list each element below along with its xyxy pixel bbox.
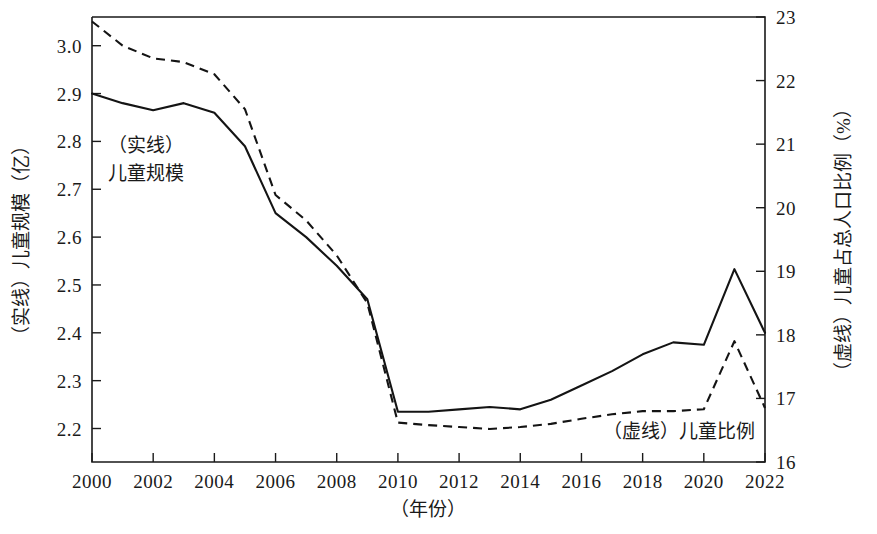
x-axis-ticks: 2000200220042006200820102012201420162018… <box>72 453 785 492</box>
series-line-children-scale <box>92 94 765 412</box>
x-axis-tick-label: 2016 <box>561 471 601 492</box>
y-axis-right-tick-label: 16 <box>776 452 796 473</box>
y-axis-left-tick-label: 2.8 <box>57 131 82 152</box>
y-axis-right-tick-label: 17 <box>776 388 796 409</box>
y-axis-left-tick-label: 2.3 <box>57 371 82 392</box>
y-axis-right-tick-label: 22 <box>776 71 796 92</box>
y-axis-left-tick-label: 2.2 <box>57 419 82 440</box>
line-chart: 2.22.32.42.52.62.72.82.93.0 161718192021… <box>0 0 877 534</box>
y-axis-right-tick-label: 20 <box>776 198 796 219</box>
y-axis-right-tick-label: 18 <box>776 325 796 346</box>
x-axis-tick-label: 2004 <box>194 471 234 492</box>
y-axis-right-tick-label: 21 <box>776 134 796 155</box>
series-line-children-share <box>92 21 765 428</box>
y-axis-left-tick-label: 2.9 <box>57 84 82 105</box>
x-axis-tick-label: 2006 <box>256 471 296 492</box>
y-axis-left-tick-label: 2.6 <box>57 227 82 248</box>
y-axis-right-tick-label: 23 <box>776 7 796 28</box>
y-axis-right-tick-label: 19 <box>776 261 796 282</box>
x-axis-tick-label: 2008 <box>317 471 357 492</box>
x-axis-tick-label: 2000 <box>72 471 112 492</box>
annotation-solid-line-1: （实线） <box>108 135 184 156</box>
chart-figure: 2.22.32.42.52.62.72.82.93.0 161718192021… <box>0 0 877 534</box>
y-axis-left-tick-label: 2.7 <box>57 179 82 200</box>
annotation-dashed-line: （虚线）儿童比例 <box>603 421 755 442</box>
x-axis-tick-label: 2002 <box>133 471 173 492</box>
y-axis-left-title: （实线）儿童规模（亿） <box>11 136 32 345</box>
x-axis-tick-label: 2018 <box>623 471 663 492</box>
x-axis-tick-label: 2020 <box>684 471 724 492</box>
plot-frame <box>92 17 765 462</box>
y-axis-right-ticks: 1617181920212223 <box>756 7 796 473</box>
y-axis-left-ticks: 2.22.32.42.52.62.72.82.93.0 <box>57 36 101 440</box>
x-axis-tick-label: 2010 <box>378 471 418 492</box>
x-axis-tick-label: 2014 <box>500 471 540 492</box>
x-axis-tick-label: 2012 <box>439 471 479 492</box>
y-axis-left-tick-label: 3.0 <box>57 36 82 57</box>
y-axis-left-tick-label: 2.5 <box>57 275 82 296</box>
y-axis-left-tick-label: 2.4 <box>57 323 82 344</box>
x-axis-tick-label: 2022 <box>745 471 785 492</box>
annotation-solid-line-2: 儿童规模 <box>108 163 184 184</box>
x-axis-title: （年份） <box>390 499 466 520</box>
y-axis-right-title: （虚线）儿童占总人口比例（%） <box>833 99 854 381</box>
